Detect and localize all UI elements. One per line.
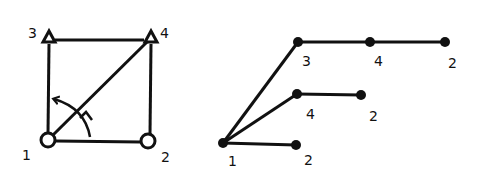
node-1-circle-icon <box>41 133 55 147</box>
node-2-circle-icon <box>141 134 155 148</box>
right-tree <box>223 42 445 145</box>
tree-edge-4-2b <box>297 94 361 95</box>
tree-node-b1-4 <box>365 37 375 47</box>
tree-node-b3-2 <box>291 140 301 150</box>
edge-1-2 <box>56 141 141 142</box>
tree-label-root: 1 <box>228 153 237 169</box>
edge-1-3 <box>48 44 49 133</box>
tree-edge-1-2 <box>223 143 296 145</box>
edge-1-4 <box>53 42 147 135</box>
diagram-canvas: 3 4 1 2 1 3 4 2 4 2 2 <box>0 0 482 181</box>
tree-label-b2-2: 2 <box>369 108 378 124</box>
node-label-3: 3 <box>28 25 37 41</box>
node-label-1: 1 <box>22 147 31 163</box>
node-label-4: 4 <box>160 25 169 41</box>
tree-node-b2-4 <box>292 89 302 99</box>
tree-node-b1-3 <box>293 37 303 47</box>
node-3-triangle-icon <box>43 31 55 42</box>
tree-edge-1-3 <box>223 42 298 143</box>
tree-label-b1-2: 2 <box>448 55 457 71</box>
tree-node-b1-2 <box>440 37 450 47</box>
tree-label-b3-2: 2 <box>304 152 313 168</box>
tree-node-b2-2 <box>356 90 366 100</box>
node-label-2: 2 <box>161 149 170 165</box>
right-tree-labels: 1 3 4 2 4 2 2 <box>228 53 457 169</box>
left-graph <box>48 40 151 142</box>
tree-edge-1-4 <box>223 94 297 143</box>
node-4-triangle-icon <box>145 31 157 42</box>
tree-label-b1-3: 3 <box>302 53 311 69</box>
tree-label-b2-4: 4 <box>306 106 315 122</box>
tree-label-b1-4: 4 <box>374 53 383 69</box>
tree-node-root <box>218 138 228 148</box>
edge-4-2 <box>150 44 151 134</box>
